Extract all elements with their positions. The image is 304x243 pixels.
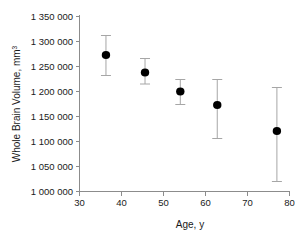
y-axis-title-superscript: 3 (11, 45, 18, 49)
data-point-marker (102, 51, 110, 59)
data-point-group (140, 59, 150, 85)
y-axis-title-text: Whole Brain Volume, mm (11, 49, 22, 162)
data-point-marker (176, 88, 184, 96)
x-tick-label: 50 (158, 197, 169, 208)
x-tick-labels: 30 40 50 60 70 80 (74, 197, 295, 208)
data-point-marker (141, 69, 149, 77)
x-tick-label: 80 (284, 197, 295, 208)
y-tick-label: 1 050 000 (31, 161, 73, 172)
data-point-group (272, 88, 282, 182)
chart-container: Whole Brain Volume, mm3 Age, y 1 000 000… (0, 0, 304, 243)
data-point-marker (273, 127, 281, 135)
x-tick-label: 30 (74, 197, 85, 208)
data-point-group (212, 80, 222, 139)
y-tick-labels: 1 000 000 1 050 000 1 100 000 1 150 000 … (31, 11, 73, 197)
data-point-marker (213, 101, 221, 109)
y-tick-label: 1 000 000 (31, 186, 73, 197)
y-tick-label: 1 350 000 (31, 11, 73, 22)
x-axis-title: Age, y (176, 219, 204, 230)
x-tick-label: 70 (242, 197, 253, 208)
x-tick-marks (80, 192, 290, 196)
scatter-chart-with-error-bars: Whole Brain Volume, mm3 Age, y 1 000 000… (0, 0, 304, 243)
data-point-group (175, 80, 185, 105)
data-series (101, 36, 282, 182)
y-tick-marks (76, 17, 80, 192)
x-tick-label: 40 (116, 197, 127, 208)
y-axis-title: Whole Brain Volume, mm3 (11, 45, 23, 162)
y-tick-label: 1 100 000 (31, 136, 73, 147)
x-tick-label: 60 (200, 197, 211, 208)
y-tick-label: 1 250 000 (31, 61, 73, 72)
y-tick-label: 1 300 000 (31, 36, 73, 47)
y-tick-label: 1 200 000 (31, 86, 73, 97)
y-tick-label: 1 150 000 (31, 111, 73, 122)
data-point-group (101, 36, 111, 76)
